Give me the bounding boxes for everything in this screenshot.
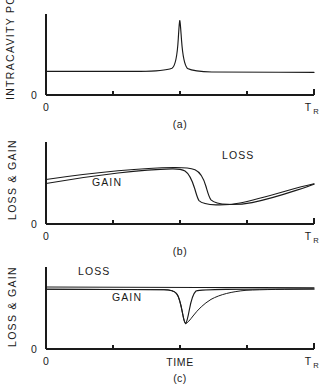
panel-b-ylabel: LOSS & GAIN (6, 139, 18, 220)
curve-label-gain-b: GAIN (92, 176, 122, 188)
panel-c-x-end-label: T (305, 355, 312, 367)
panel-a-x-start-label: 0 (43, 101, 49, 113)
panel-a-x-end-subscript: R (313, 107, 319, 116)
panel-c-plot: LOSS & GAIN 0 0 T R LOSS GAIN TIME (0, 255, 330, 392)
panel-a-ylabel: INTRACAVITY POWER (4, 0, 16, 100)
curve-label-loss-c: LOSS (78, 265, 110, 277)
panel-b-x-end-subscript: R (313, 236, 319, 245)
panel-c-x-end-subscript: R (313, 361, 319, 370)
curve-loss-b (46, 167, 314, 204)
curve-label-loss-b: LOSS (222, 149, 254, 161)
panel-a-plot: INTRACAVITY POWER 0 0 T R (0, 0, 330, 135)
panel-c-y-zero-label: 0 (31, 343, 37, 355)
panel-a: INTRACAVITY POWER 0 0 T R (a) (0, 0, 330, 135)
curve-gain-fast-c (46, 289, 314, 324)
panel-b-y-zero-label: 0 (31, 218, 37, 230)
curve-intracavity-power (46, 21, 314, 73)
panel-b-x-end-label: T (305, 230, 312, 242)
panel-b: LOSS & GAIN 0 0 T R GAIN LOSS (b) (0, 128, 330, 260)
figure-root: INTRACAVITY POWER 0 0 T R (a) LOSS & (0, 0, 330, 392)
panel-a-y-zero-label: 0 (31, 89, 37, 101)
panel-c-caption: (c) (173, 372, 187, 384)
curve-label-gain-c: GAIN (112, 291, 142, 303)
panel-c-x-start-label: 0 (43, 355, 49, 367)
curve-gain-slow-c (46, 289, 314, 324)
panel-b-x-start-label: 0 (43, 230, 49, 242)
panel-c-xlabel: TIME (166, 356, 193, 368)
panel-c-ylabel: LOSS & GAIN (6, 266, 18, 347)
panel-b-plot: LOSS & GAIN 0 0 T R GAIN LOSS (b) (0, 128, 330, 260)
panel-a-x-end-label: T (305, 101, 312, 113)
panel-c: LOSS & GAIN 0 0 T R LOSS GAIN TIME (0, 255, 330, 392)
curve-loss-c (46, 287, 314, 288)
